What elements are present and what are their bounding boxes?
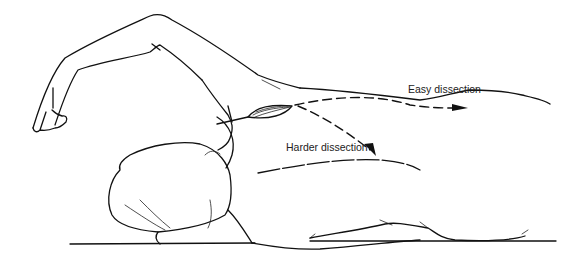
head [109, 143, 231, 232]
pillow [156, 210, 252, 244]
toes [310, 220, 528, 238]
easy-dissection-label: Easy dissection [408, 83, 481, 95]
body-line-drawing [0, 0, 582, 263]
figure-canvas: Easy dissection Harder dissection [0, 0, 582, 263]
easy-dissection-arrow-path [295, 98, 460, 109]
neck [217, 117, 233, 168]
leg-upper [310, 223, 525, 240]
shoulder-contour [202, 80, 232, 150]
arm-outline-top [33, 15, 300, 128]
table-line [70, 241, 556, 244]
hair-lines [125, 151, 220, 230]
harder-dissection-label: Harder dissection [286, 141, 368, 153]
arm-outline-bottom [55, 45, 202, 125]
ribs-line [258, 160, 420, 173]
easy-dissection-arrowhead [452, 104, 468, 111]
